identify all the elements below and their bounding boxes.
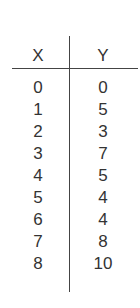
cell-x: 0 xyxy=(18,78,58,98)
xy-value-table: X Y 0 0 1 5 2 3 3 7 4 5 5 4 6 4 xyxy=(0,0,140,308)
cell-x: 8 xyxy=(18,254,58,274)
table-row: 1 5 xyxy=(0,100,140,122)
cell-y: 5 xyxy=(83,166,123,186)
cell-x: 6 xyxy=(18,210,58,230)
cell-y: 8 xyxy=(83,232,123,252)
table-row: 7 8 xyxy=(0,232,140,254)
cell-y: 0 xyxy=(83,78,123,98)
table-body: 0 0 1 5 2 3 3 7 4 5 5 4 6 4 7 8 xyxy=(0,78,140,276)
cell-x: 5 xyxy=(18,188,58,208)
cell-y: 3 xyxy=(83,122,123,142)
table-row: 0 0 xyxy=(0,78,140,100)
cell-y: 10 xyxy=(83,254,123,274)
header-y: Y xyxy=(83,46,123,66)
header-x: X xyxy=(18,46,58,66)
table-row: 3 7 xyxy=(0,144,140,166)
header-rule xyxy=(12,68,138,69)
cell-x: 2 xyxy=(18,122,58,142)
cell-y: 4 xyxy=(83,210,123,230)
table-row: 4 5 xyxy=(0,166,140,188)
cell-x: 4 xyxy=(18,166,58,186)
cell-x: 7 xyxy=(18,232,58,252)
cell-x: 3 xyxy=(18,144,58,164)
cell-y: 4 xyxy=(83,188,123,208)
cell-y: 7 xyxy=(83,144,123,164)
cell-y: 5 xyxy=(83,100,123,120)
table-row: 6 4 xyxy=(0,210,140,232)
table-row: 8 10 xyxy=(0,254,140,276)
table-row: 5 4 xyxy=(0,188,140,210)
table-row: 2 3 xyxy=(0,122,140,144)
cell-x: 1 xyxy=(18,100,58,120)
